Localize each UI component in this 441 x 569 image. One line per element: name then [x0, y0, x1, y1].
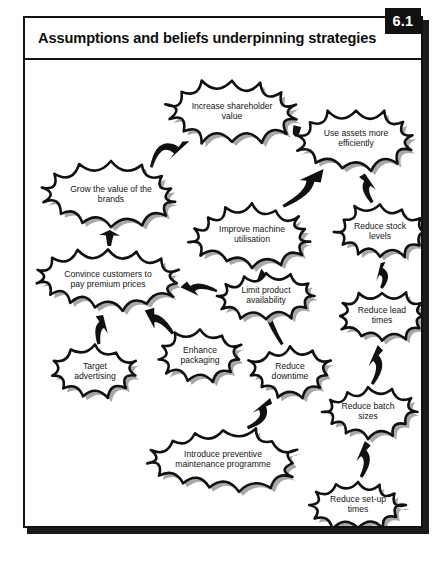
edge-maintenance-to-downtime	[247, 398, 272, 429]
node-reduce-lead-times: Reduce leadtimes	[340, 292, 421, 344]
node-target-advertising: Targetadvertising	[52, 345, 140, 403]
node-grow-value-of-brands: Grow the value of thebrands	[42, 161, 179, 231]
figure-frame: Assumptions and beliefs underpinning str…	[23, 16, 423, 528]
node-increase-shareholder-value: Increase shareholdervalue	[165, 81, 300, 148]
node-label: Reducedowntime	[272, 361, 309, 382]
node-label: Enhancepackaging	[180, 345, 219, 366]
node-use-assets-more-efficiently: Use assets moreefficiently	[297, 111, 417, 176]
figure-page: Assumptions and beliefs underpinning str…	[0, 0, 441, 569]
node-label: Limit productavailability	[241, 285, 291, 306]
figure-number-badge: 6.1	[385, 8, 421, 34]
edge-machine-to-assets	[282, 169, 323, 208]
edge-brands-to-shareholder	[150, 141, 189, 167]
edge-premium-to-brands	[99, 230, 120, 246]
node-introduce-preventive-maint: Introduce preventivemaintenance programm…	[147, 429, 301, 496]
node-label: Introduce preventivemaintenance programm…	[175, 449, 271, 470]
page-title: Assumptions and beliefs underpinning str…	[25, 30, 376, 46]
node-improve-machine-utilisation: Improve machineutilisation	[188, 203, 314, 272]
edge-target-to-premium	[95, 315, 108, 345]
edge-limit-to-premium	[180, 282, 217, 296]
edge-setup-to-batch	[357, 441, 371, 478]
node-label: Convince customers topay premium prices	[64, 269, 152, 290]
node-limit-product-availability: Limit productavailability	[217, 273, 319, 323]
edge-batch-to-lead	[369, 345, 384, 385]
node-reduce-set-up-times: Reduce set-uptimes	[309, 482, 410, 526]
node-reduce-downtime: Reducedowntime	[248, 346, 334, 402]
diagram-canvas: Increase shareholdervalueUse assets more…	[25, 60, 421, 526]
figure-title-bar: Assumptions and beliefs underpinning str…	[25, 18, 421, 58]
edge-packaging-to-premium	[145, 308, 174, 335]
node-reduce-stock-levels: Reduce stocklevels	[334, 204, 421, 261]
node-enhance-packaging: Enhancepackaging	[159, 329, 246, 386]
node-convince-customers-premium: Convince customers topay premium prices	[37, 249, 183, 315]
edge-lead-to-stock	[376, 262, 388, 289]
edge-stock-to-assets	[359, 174, 376, 204]
causal-map-svg: Increase shareholdervalueUse assets more…	[25, 60, 421, 526]
node-reduce-batch-sizes: Reduce batchsizes	[322, 387, 421, 443]
